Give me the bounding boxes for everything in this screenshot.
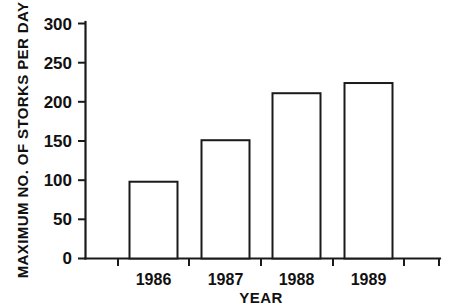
chart-figure: MAXIMUM NO. OF STORKS PER DAY 300 250 20… — [0, 0, 459, 308]
y-tick-label-0: 0 — [63, 249, 72, 268]
bar-1986 — [130, 182, 178, 259]
bar-1987 — [202, 140, 250, 258]
y-tick-label-300: 300 — [44, 15, 72, 34]
x-tick-label-1988: 1988 — [279, 271, 315, 288]
bar-1989 — [345, 83, 393, 258]
stork-bar-chart: MAXIMUM NO. OF STORKS PER DAY 300 250 20… — [0, 0, 459, 308]
y-tick-label-250: 250 — [44, 54, 72, 73]
x-tick-label-1989: 1989 — [351, 271, 387, 288]
y-axis-title: MAXIMUM NO. OF STORKS PER DAY — [14, 2, 31, 279]
x-tick-marks — [118, 259, 439, 267]
y-tick-label-100: 100 — [44, 171, 72, 190]
y-tick-marks — [78, 24, 85, 259]
x-axis-title: YEAR — [239, 289, 282, 306]
bar-1988 — [273, 93, 321, 258]
y-tick-label-200: 200 — [44, 93, 72, 112]
x-tick-label-1987: 1987 — [208, 271, 244, 288]
y-tick-label-50: 50 — [53, 210, 72, 229]
y-tick-label-150: 150 — [44, 132, 72, 151]
bars-group — [130, 83, 393, 258]
x-tick-label-1986: 1986 — [136, 271, 172, 288]
